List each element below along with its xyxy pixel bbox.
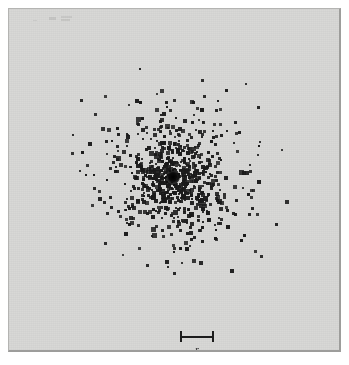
- scale-bar-icon: [173, 329, 221, 345]
- scale-bar-label: r: [173, 344, 221, 352]
- scatter-plot-canvas: [9, 9, 341, 352]
- plot-panel: r: [8, 8, 341, 352]
- scale-bar: r: [173, 329, 221, 352]
- figure-root: r: [0, 0, 349, 365]
